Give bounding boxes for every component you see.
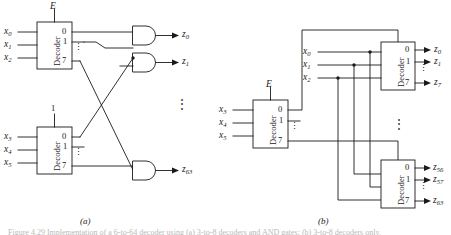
panel-b-enable-label: E bbox=[266, 80, 272, 90]
panel-b-bot-out7-arrow bbox=[424, 198, 431, 204]
panel-a-input-label-x0: x0 bbox=[4, 27, 12, 37]
panel-b-decoder-left-vdots: ⋮ bbox=[290, 122, 299, 131]
panel-b-decoder-left-out7: 7 bbox=[278, 136, 282, 145]
panel-b-output-label-z63: z63 bbox=[433, 196, 443, 206]
junction-dot bbox=[368, 50, 371, 53]
panel-a-enable-label: E bbox=[50, 2, 56, 12]
panel-a-decoder-top-out0: 0 bbox=[62, 27, 66, 36]
panel-a-cross-wire-top7-to-z63 bbox=[80, 61, 133, 170]
panel-a-input-label-x2: x2 bbox=[4, 53, 12, 63]
figure-root: E 1 x0 x1 x2 Decoder 0 1 7 ⋮ x3 x4 x5 De… bbox=[0, 0, 451, 235]
panel-a-caption: (a) bbox=[80, 216, 91, 226]
panel-a-decoder-bottom-out1: 1 bbox=[63, 142, 67, 151]
panel-b-decoder-bottom-vdots: ⋮ bbox=[419, 182, 428, 191]
panel-b-input-label-x1: x1 bbox=[303, 60, 311, 70]
junction-dot bbox=[352, 63, 355, 66]
panel-b-decoder-top-out7: 7 bbox=[405, 78, 409, 87]
panel-a-input-label-x3: x3 bbox=[4, 132, 12, 142]
panel-b-input-label-x2: x2 bbox=[303, 73, 311, 83]
panel-a-decoder-bottom-word: Decoder bbox=[52, 141, 62, 171]
panel-a-decoder-top-word: Decoder bbox=[52, 36, 62, 66]
panel-b-decoder-bottom-out0: 0 bbox=[405, 163, 409, 172]
panel-a-and-gate-z63-arrow bbox=[172, 168, 179, 174]
junction-dot bbox=[131, 56, 134, 59]
panel-b-decoder-bottom-out1: 1 bbox=[406, 175, 410, 184]
panel-a-and-gate-z0-arrow bbox=[172, 33, 179, 39]
panel-a-and-gate-z0-body bbox=[133, 26, 156, 45]
panel-b-output-label-z56: z56 bbox=[433, 163, 443, 173]
panel-b-input-label-x0: x0 bbox=[303, 47, 311, 57]
panel-b-output-label-z0: z0 bbox=[434, 45, 441, 55]
panel-b-tap-wire-x2 bbox=[338, 78, 381, 200]
panel-b-input-label-x4: x4 bbox=[219, 118, 227, 128]
panel-a-output-label-z63: z63 bbox=[182, 165, 192, 175]
panel-a-cross-wire-bot0-to-z1 bbox=[80, 58, 133, 137]
figure-bottom-caption: Figure 4.29 Implementation of a 6-to-64 … bbox=[8, 228, 381, 235]
panel-b-top-out7-arrow bbox=[424, 80, 431, 86]
panel-a-output-label-z1: z1 bbox=[182, 57, 189, 67]
panel-a-and-gate-z1-body bbox=[133, 53, 156, 72]
junction-dot bbox=[336, 76, 339, 79]
panel-b-caption: (b) bbox=[318, 216, 329, 226]
panel-b-input-label-x5: x5 bbox=[219, 131, 227, 141]
panel-b-decoder-top-out0: 0 bbox=[405, 45, 409, 54]
panel-a-wire-out1-to-z0 bbox=[84, 42, 133, 48]
panel-a-enable-const: 1 bbox=[51, 104, 55, 113]
panel-b-decoder-left-out1: 1 bbox=[279, 116, 283, 125]
panel-a-input-label-x5: x5 bbox=[4, 158, 12, 168]
panel-b-bot-out0-arrow bbox=[424, 165, 431, 171]
panel-b-output-label-z1: z1 bbox=[434, 57, 441, 67]
panel-b-input-label-x3: x3 bbox=[219, 105, 227, 115]
panel-b-decoder-bottom-out7: 7 bbox=[405, 196, 409, 205]
panel-b-decoder-left-out0: 0 bbox=[278, 105, 282, 114]
panel-b-tap-wire-x1 bbox=[354, 65, 381, 174]
panel-b-tap-wire-x0 bbox=[370, 52, 381, 187]
panel-b-output-label-z57: z57 bbox=[433, 175, 443, 185]
panel-b-decoder-top-out1: 1 bbox=[406, 57, 410, 66]
panel-a-middle-vdots: ⋮ bbox=[176, 98, 188, 110]
panel-a-decoder-bottom-out0: 0 bbox=[62, 132, 66, 141]
panel-a-and-gate-z63-body bbox=[133, 161, 156, 180]
panel-a-decoder-bottom-vdots: ⋮ bbox=[74, 148, 83, 157]
panel-a-and-gate-z1-arrow bbox=[172, 60, 179, 66]
panel-b-top-out0-arrow bbox=[424, 47, 431, 53]
panel-a-decoder-top-out7: 7 bbox=[62, 56, 66, 65]
panel-a-input-label-x1: x1 bbox=[4, 40, 12, 50]
panel-b-middle-vdots: ⋮ bbox=[393, 118, 405, 130]
panel-b-output-label-z7: z7 bbox=[434, 78, 441, 88]
panel-b-decoder-top-vdots: ⋮ bbox=[419, 64, 428, 73]
panel-b-wire-left-out7-to-bottom-enable bbox=[288, 141, 398, 160]
panel-a-input-label-x4: x4 bbox=[4, 145, 12, 155]
panel-a-decoder-top-vdots: ⋮ bbox=[74, 43, 83, 52]
panel-a-decoder-top-out1: 1 bbox=[63, 37, 67, 46]
panel-a-decoder-bottom-out7: 7 bbox=[62, 161, 66, 170]
panel-b-decoder-left-word: Decoder bbox=[268, 115, 278, 145]
panel-a-output-label-z0: z0 bbox=[182, 30, 189, 40]
